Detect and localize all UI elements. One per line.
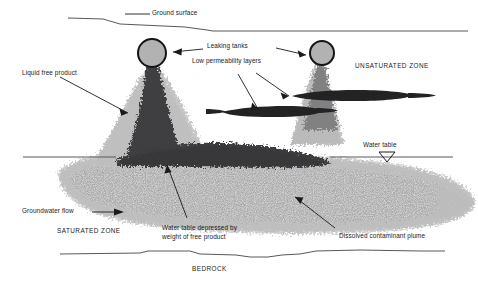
label-liquid-free-product: Liquid free product <box>22 69 77 78</box>
label-dissolved-contaminant-plume: Dissolved contaminant plume <box>339 232 425 241</box>
label-bedrock: BEDROCK <box>192 265 227 274</box>
leaking-tank-right[interactable] <box>310 41 334 65</box>
label-groundwater-flow: Groundwater flow <box>22 207 74 216</box>
label-water-table-depressed-line2: weight of free product <box>162 233 226 242</box>
label-water-table: Water table <box>363 141 397 150</box>
diagram-canvas: Ground surface Leaking tanks Low permeab… <box>0 0 478 286</box>
label-saturated-zone: SATURATED ZONE <box>57 227 121 236</box>
label-low-permeability-layers: Low permeability layers <box>192 57 261 66</box>
label-leaking-tanks: Leaking tanks <box>207 42 248 51</box>
label-unsaturated-zone: UNSATURATED ZONE <box>355 62 429 71</box>
label-water-table-depressed-line1: Water table depressed by <box>162 224 237 233</box>
label-ground-surface: Ground surface <box>152 9 197 18</box>
leaking-tank-left[interactable] <box>138 39 166 67</box>
